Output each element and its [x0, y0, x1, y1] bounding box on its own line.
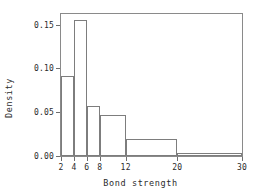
y-tick-label: 0.15 [34, 20, 54, 29]
y-tick-mark [56, 112, 60, 113]
x-tick-mark [100, 157, 101, 161]
x-tick-label: 20 [172, 163, 182, 172]
y-tick-mark [56, 68, 60, 69]
x-tick-label: 2 [58, 163, 63, 172]
y-tick-label: 0.05 [34, 108, 54, 117]
histogram-figure: Density 0.000.050.100.152468122030 Bond … [0, 0, 255, 196]
x-tick-mark [74, 157, 75, 161]
y-tick-mark [56, 25, 60, 26]
histogram-bar [100, 115, 126, 156]
histogram-bar [87, 106, 100, 156]
histogram-bar [126, 139, 178, 156]
y-tick-label: 0.00 [34, 152, 54, 161]
x-tick-label: 4 [71, 163, 76, 172]
x-tick-mark [87, 157, 88, 161]
x-axis-label: Bond strength [0, 178, 255, 188]
y-tick-mark [56, 156, 60, 157]
x-tick-label: 12 [121, 163, 131, 172]
histogram-bar [177, 153, 242, 156]
x-tick-label: 8 [97, 163, 102, 172]
x-tick-mark [242, 157, 243, 161]
histogram-bar [74, 20, 87, 156]
y-axis-label: Density [0, 0, 18, 196]
x-tick-mark [61, 157, 62, 161]
plot-area: 0.000.050.100.152468122030 [60, 13, 243, 157]
x-tick-mark [126, 157, 127, 161]
plot-inner [61, 14, 242, 156]
x-tick-label: 30 [237, 163, 247, 172]
histogram-bar [61, 76, 74, 156]
y-tick-label: 0.10 [34, 64, 54, 73]
x-tick-label: 6 [84, 163, 89, 172]
x-tick-mark [177, 157, 178, 161]
